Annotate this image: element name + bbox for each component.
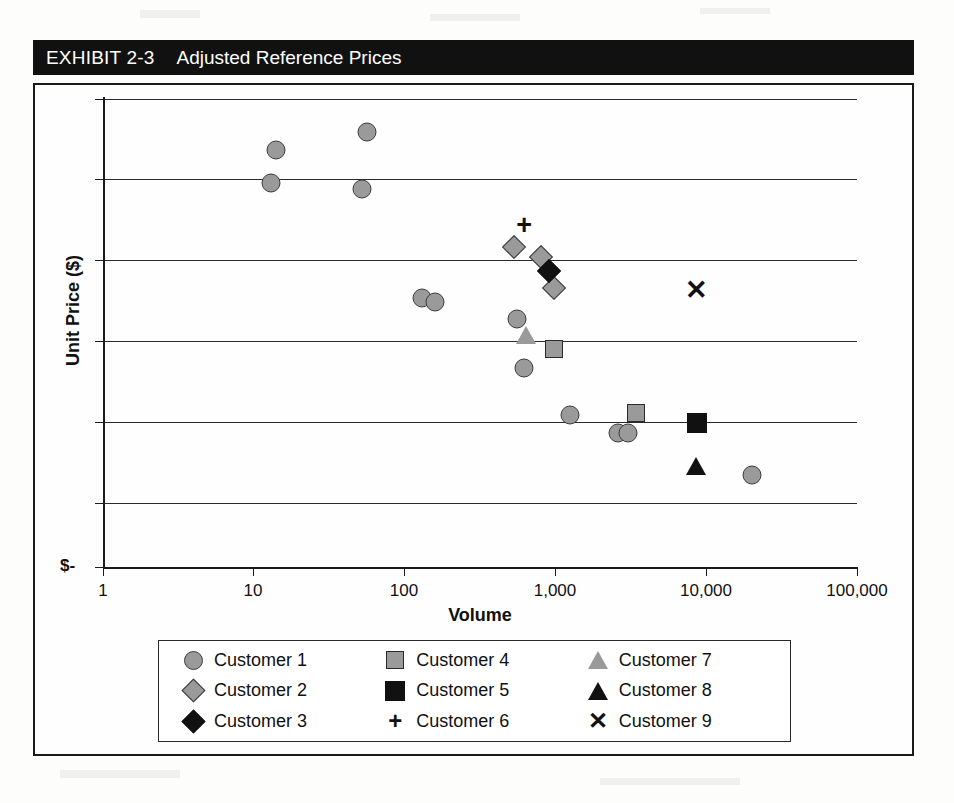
legend-swatch-square-filled-icon: [385, 681, 405, 701]
legend-swatch-triangle-icon: [588, 650, 608, 670]
legend-item-customer-7[interactable]: Customer 7: [588, 650, 790, 671]
chart-legend: Customer 1Customer 4Customer 7Customer 2…: [158, 640, 791, 742]
legend-swatch-x-icon: ✕: [588, 712, 608, 732]
marker-triangle-icon: [588, 651, 608, 669]
legend-item-customer-4[interactable]: Customer 4: [385, 650, 587, 671]
legend-item-customer-3[interactable]: Customer 3: [183, 711, 385, 732]
legend-item-label: Customer 2: [214, 680, 307, 701]
legend-item-label: Customer 7: [619, 650, 712, 671]
exhibit-title: Adjusted Reference Prices: [177, 47, 402, 69]
legend-item-label: Customer 9: [619, 711, 712, 732]
legend-item-customer-8[interactable]: Customer 8: [588, 680, 790, 701]
marker-plus-icon: +: [385, 711, 405, 733]
legend-swatch-circle-icon: [183, 650, 203, 670]
legend-item-customer-9[interactable]: ✕Customer 9: [588, 711, 790, 732]
legend-item-customer-5[interactable]: Customer 5: [385, 680, 587, 701]
legend-swatch-diamond-filled-icon: [183, 712, 203, 732]
marker-diamond-icon: [181, 679, 205, 703]
exhibit-title-bar: EXHIBIT 2-3 Adjusted Reference Prices: [33, 40, 914, 75]
marker-square-filled-icon: [385, 681, 405, 701]
marker-circle-icon: [184, 651, 203, 670]
legend-item-customer-2[interactable]: Customer 2: [183, 680, 385, 701]
legend-item-label: Customer 6: [416, 711, 509, 732]
exhibit-number: EXHIBIT 2-3: [46, 47, 155, 69]
legend-item-label: Customer 3: [214, 711, 307, 732]
legend-item-label: Customer 4: [416, 650, 509, 671]
legend-swatch-diamond-icon: [183, 681, 203, 701]
marker-triangle-filled-icon: [588, 682, 608, 700]
legend-item-customer-6[interactable]: +Customer 6: [385, 711, 587, 732]
legend-item-label: Customer 1: [214, 650, 307, 671]
legend-swatch-plus-icon: +: [385, 712, 405, 732]
marker-x-icon: ✕: [588, 711, 608, 733]
legend-swatch-square-icon: [385, 650, 405, 670]
legend-swatch-triangle-filled-icon: [588, 681, 608, 701]
legend-item-customer-1[interactable]: Customer 1: [183, 650, 385, 671]
legend-item-label: Customer 8: [619, 680, 712, 701]
marker-diamond-filled-icon: [181, 710, 205, 734]
marker-square-icon: [386, 651, 404, 669]
legend-item-label: Customer 5: [416, 680, 509, 701]
